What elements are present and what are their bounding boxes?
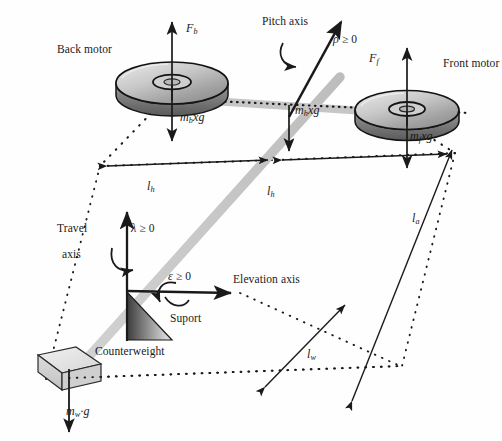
travel-axis-label-line1: Travel: [57, 222, 87, 234]
travel-angle-label: λ ≥ 0: [131, 222, 155, 235]
counterweight-label: Counterweight: [95, 345, 165, 357]
lw-dimension-line: [265, 305, 345, 387]
hub-weight-rest: xg: [308, 103, 320, 117]
front-motor-label: Front motor: [443, 57, 499, 69]
elevation-axis-label: Elevation axis: [233, 273, 300, 285]
front-weight-label: mfxg: [410, 130, 433, 145]
support-triangle: [127, 292, 172, 340]
lh-back-dimension-label: lh: [147, 180, 155, 195]
lh-back-subscript: h: [150, 185, 154, 194]
lh-front-dimension-label: lh: [267, 185, 275, 200]
pitch-angle-label: ρ ≥ 0: [333, 33, 357, 46]
la-subscript: a: [415, 217, 419, 226]
elevation-angle-symbol: ε: [168, 269, 173, 283]
pitch-angle-symbol: ρ: [333, 32, 339, 46]
travel-rotation-arrow: [111, 248, 133, 271]
travel-angle-relation: ≥ 0: [139, 222, 154, 234]
la-dimension-line: [352, 150, 452, 401]
front-weight-symbol: m: [410, 129, 419, 143]
back-weight-symbol: m: [180, 110, 189, 124]
diagram-svg: [0, 0, 502, 441]
elevation-axis-dotted: [240, 293, 400, 366]
hub-weight-label: mhxg: [295, 104, 320, 119]
pitch-axis-label: Pitch axis: [262, 15, 308, 27]
main-beam: [75, 77, 340, 372]
pitch-angle-relation: ≥ 0: [342, 33, 357, 45]
elevation-rotation-arrow: [158, 282, 189, 305]
lh-front-subscript: h: [270, 190, 274, 199]
elevation-angle-relation: ≥ 0: [176, 270, 191, 282]
front-thrust-subscript: f: [376, 57, 378, 66]
travel-angle-symbol: λ: [131, 221, 136, 235]
travel-axis-label-line2: axis: [62, 248, 81, 260]
back-thrust-subscript: b: [193, 27, 197, 36]
support-label: Suport: [170, 312, 201, 324]
lh-dimension-lines: [107, 154, 447, 166]
front-thrust-label: Ff: [369, 52, 379, 67]
back-weight-rest: xg: [193, 110, 205, 124]
front-weight-rest: xg: [421, 129, 433, 143]
diagram-canvas: Back motor Front motor Pitch axis Travel…: [0, 0, 502, 441]
counterweight-weight-symbol: m: [66, 404, 75, 418]
hub-weight-symbol: m: [295, 103, 304, 117]
elevation-angle-label: ε ≥ 0: [168, 270, 191, 283]
back-weight-label: mbxg: [180, 111, 205, 126]
la-dimension-label: la: [412, 212, 420, 227]
lw-dimension-label: lw: [307, 348, 316, 363]
back-thrust-label: Fb: [186, 22, 198, 37]
back-motor-label: Back motor: [57, 43, 112, 55]
counterweight-weight-label: mw·g: [66, 405, 90, 420]
lw-subscript: w: [310, 353, 316, 362]
counterweight-weight-rest: ·g: [80, 404, 89, 418]
pitch-rotation-arrow: [281, 43, 296, 67]
